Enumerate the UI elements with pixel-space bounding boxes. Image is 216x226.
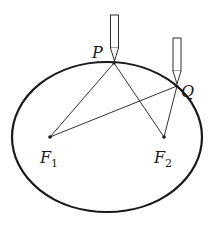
- point-q: [175, 84, 178, 87]
- segment-p-f2: [114, 63, 164, 137]
- label-p: P: [91, 43, 103, 62]
- segment-f1-p: [50, 63, 114, 137]
- pencil-icon: [173, 38, 181, 84]
- label-f1-main: F: [39, 148, 52, 167]
- label-f1: F1: [39, 148, 58, 170]
- segment-f1-q: [50, 86, 177, 137]
- label-f2-main: F: [153, 148, 166, 167]
- segment-q-f2: [164, 86, 177, 137]
- label-f1-subscript: 1: [51, 157, 58, 170]
- label-f2-subscript: 2: [165, 157, 172, 170]
- pencil-icon: [111, 15, 119, 61]
- point-p: [112, 61, 115, 64]
- focus-f2: [162, 135, 166, 139]
- label-q: Q: [181, 82, 194, 101]
- ellipse-curve: [12, 62, 202, 212]
- focus-f1: [48, 135, 52, 139]
- label-f2: F2: [153, 148, 172, 170]
- ellipse-foci-diagram: P Q F1 F2: [0, 0, 216, 226]
